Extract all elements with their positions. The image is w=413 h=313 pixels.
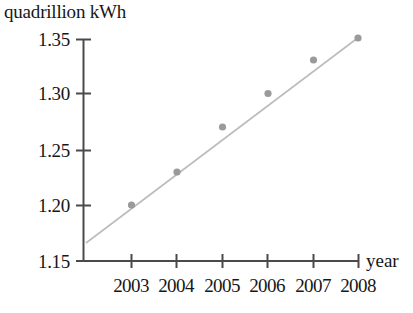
data-point-2003 bbox=[128, 201, 135, 208]
y-tick-label-3: 1.25 bbox=[12, 141, 70, 160]
data-point-2005 bbox=[219, 123, 226, 130]
x-tick-label-2004: 2004 bbox=[150, 276, 202, 295]
data-point-2004 bbox=[173, 168, 180, 175]
y-tick-label-4: 1.20 bbox=[12, 196, 70, 215]
data-point-2006 bbox=[264, 90, 271, 97]
y-tick-label-1: 1.35 bbox=[12, 30, 70, 49]
x-axis-title: year bbox=[366, 250, 413, 271]
x-tick-label-2008: 2008 bbox=[332, 276, 384, 295]
y-tick-label-5: 1.15 bbox=[12, 252, 70, 271]
chart-figure: quadrillion kWh 1.35 1.30 1.25 1.20 1.15 bbox=[0, 0, 413, 313]
trend-line bbox=[86, 37, 359, 243]
x-tick-label-2006: 2006 bbox=[241, 276, 293, 295]
y-tick-label-2: 1.30 bbox=[12, 84, 70, 103]
data-point-2007 bbox=[310, 56, 317, 63]
data-point-2008 bbox=[354, 34, 361, 41]
